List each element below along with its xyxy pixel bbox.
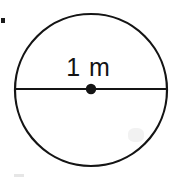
ink-speck-icon: [1, 18, 5, 23]
scan-smudge-interior: [128, 128, 144, 142]
diameter-measurement-label: 1 m: [0, 54, 177, 80]
center-point-dot: [86, 84, 96, 94]
diagram-canvas: [0, 0, 177, 180]
scan-smudge-bottom-left: [14, 174, 24, 177]
circle-diagram-figure: 1 m: [0, 0, 177, 180]
